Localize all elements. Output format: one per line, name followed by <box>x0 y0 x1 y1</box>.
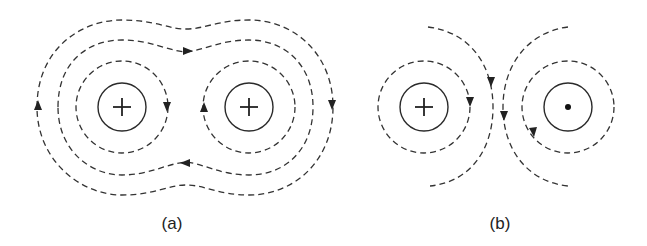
arrow-down-right-icon <box>529 127 537 137</box>
arrow-up-icon <box>200 102 208 112</box>
arrow-down-icon <box>328 100 336 110</box>
panel-a: (a) <box>34 20 336 233</box>
middle-field-loop <box>58 40 313 175</box>
dot-icon <box>565 104 571 110</box>
arrow-right-icon <box>183 47 193 55</box>
arrow-down-icon <box>487 77 495 87</box>
caption-b: (b) <box>490 214 511 233</box>
outer-field-loop <box>37 20 333 195</box>
arrow-left-icon <box>180 159 190 167</box>
arrow-down-icon <box>500 111 508 121</box>
arrow-down-icon <box>163 102 171 112</box>
arrow-up-icon <box>34 100 42 110</box>
field-lines-figure: (a) (b) <box>0 0 647 246</box>
outer-arc-left-b <box>428 27 493 186</box>
caption-a: (a) <box>162 214 183 233</box>
panel-b: (b) <box>378 27 614 233</box>
arrow-down-icon <box>466 97 474 107</box>
outer-arc-right-b <box>503 27 568 186</box>
